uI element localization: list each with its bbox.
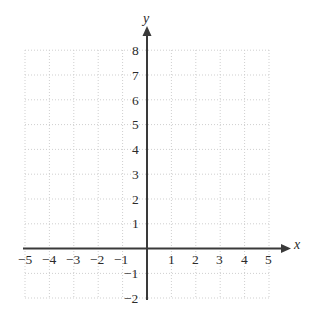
x-tick-label-3: 3 bbox=[216, 253, 223, 267]
coordinate-plane-figure: −5 −4 −3 −2 −1 1 2 3 4 5 8 7 6 5 4 3 2 1… bbox=[0, 0, 309, 318]
y-tick-label-3: 3 bbox=[132, 168, 139, 182]
x-tick-label-1: 1 bbox=[168, 253, 175, 267]
x-tick-label-5: 5 bbox=[265, 253, 272, 267]
y-tick-label--1: −1 bbox=[124, 267, 138, 281]
y-tick-label-2: 2 bbox=[132, 193, 139, 207]
y-tick-label-4: 4 bbox=[132, 143, 139, 157]
x-tick-label-4: 4 bbox=[241, 253, 248, 267]
x-axis-label: x bbox=[294, 238, 300, 252]
y-tick-label-8: 8 bbox=[132, 44, 139, 58]
y-tick-label--2: −2 bbox=[124, 292, 138, 306]
x-tick-label--2: −2 bbox=[90, 253, 104, 267]
y-tick-label-5: 5 bbox=[132, 118, 139, 132]
coordinate-grid-svg bbox=[0, 0, 309, 318]
y-tick-label-6: 6 bbox=[132, 94, 139, 108]
figure-background bbox=[0, 0, 309, 318]
y-tick-label-1: 1 bbox=[132, 217, 139, 231]
y-axis-label: y bbox=[143, 12, 149, 26]
x-tick-label-2: 2 bbox=[192, 253, 199, 267]
x-tick-label--1: −1 bbox=[114, 253, 128, 267]
x-tick-label--3: −3 bbox=[66, 253, 80, 267]
x-tick-label--4: −4 bbox=[42, 253, 56, 267]
x-tick-label--5: −5 bbox=[18, 253, 32, 267]
y-tick-label-7: 7 bbox=[132, 69, 139, 83]
